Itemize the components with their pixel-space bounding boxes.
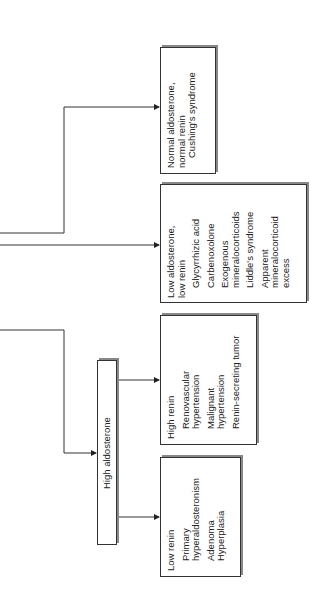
item: excess <box>281 211 292 298</box>
item: hypertension <box>216 336 227 439</box>
node-high-renin: High renin Renovascular hypertension Mal… <box>160 315 257 445</box>
heading-line: low renin <box>177 211 188 298</box>
item: Renin-secreting tumor <box>231 336 242 439</box>
node-high-aldosterone: High aldosterone <box>97 360 117 545</box>
item: Liddle's syndrome <box>245 211 256 298</box>
item: mineralocorticoid <box>270 211 281 298</box>
item: Glycyrrhizic acid <box>191 211 202 298</box>
node-low-aldosterone: Low aldosterone, low renin Glycyrrhizic … <box>160 184 307 303</box>
heading-line: High renin <box>166 336 177 439</box>
node-low-renin: Low renin Primary hyperaldosteronism Ade… <box>160 457 241 577</box>
item: Cushing's syndrome <box>187 72 198 168</box>
item: hypertension <box>191 336 202 439</box>
heading-line: Low aldosterone, <box>166 211 177 298</box>
node-normal-aldosterone: Normal aldosterone, normal renin Cushing… <box>160 47 216 174</box>
heading-line: Low renin <box>166 478 177 571</box>
item: hyperaldosteronism <box>191 478 202 571</box>
heading-line: Normal aldosterone, <box>166 72 177 168</box>
item: Exogenous <box>220 211 231 298</box>
item: Hyperplasia <box>216 478 227 571</box>
node-label: High aldosterone <box>102 417 113 489</box>
item: mineralocorticoids <box>231 211 242 298</box>
item: Carbenoxolone <box>206 211 217 298</box>
connector-lines <box>0 0 311 616</box>
